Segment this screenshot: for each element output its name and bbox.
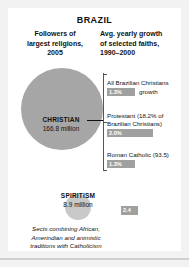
growth-bar-row: 1.3% growth (107, 88, 179, 96)
pie-label-spiritism-name: SPIRITISM (46, 192, 110, 201)
growth-bar-suffix: growth (139, 88, 158, 96)
leader-line-christian (87, 120, 104, 121)
growth-item-protestant: Protestant (18.2% ofBrazilian Christians… (107, 112, 179, 137)
pie-label-christian: CHRISTIAN 166.8 million (30, 116, 92, 133)
growth-bar-row: 2.0% (107, 129, 179, 137)
spiritism-growth-bar-value: 2.4 (123, 206, 131, 215)
bracket-tick-top (103, 74, 107, 75)
bracket-tick-bottom (103, 170, 107, 171)
growth-bar: 1.3% (107, 88, 135, 96)
footnote: Sects combining African,Amerindian and a… (22, 225, 110, 251)
growth-item-all-christians: All Brazilian Christians 1.3% growth (107, 79, 179, 96)
bottom-divider (0, 258, 189, 260)
growth-bar: 1.3% (107, 160, 135, 168)
pie-label-spiritism-value: 8.9 million (46, 201, 110, 210)
growth-label: Protestant (18.2% ofBrazilian Christians… (107, 112, 179, 128)
growth-item-roman-catholic: Roman Catholic (93.5) 1.3% (107, 151, 179, 168)
pie-label-spiritism: SPIRITISM 8.9 million (46, 192, 110, 209)
left-column-heading: Followers oflargest religions,2005 (14, 29, 96, 58)
pie-label-christian-name: CHRISTIAN (30, 116, 92, 125)
page-title: BRAZIL (8, 15, 181, 25)
growth-bar-value: 1.3% (109, 88, 122, 96)
spiritism-growth-bar: 2.4 (121, 206, 138, 215)
growth-bar: 2.0% (107, 129, 153, 137)
infographic-panel: BRAZIL Followers oflargest religions,200… (8, 8, 181, 251)
pie-label-christian-value: 166.8 million (30, 125, 92, 134)
growth-bar-value: 2.0% (109, 129, 122, 137)
pie-slice-christian (21, 68, 103, 150)
infographic-page: BRAZIL Followers oflargest religions,200… (0, 0, 189, 267)
growth-bar-value: 1.3% (109, 160, 122, 168)
growth-bar-row: 1.3% (107, 160, 179, 168)
growth-label: Roman Catholic (93.5) (107, 151, 179, 159)
growth-label: All Brazilian Christians (107, 79, 179, 87)
right-column-heading: Avg. yearly growthof selected faiths,199… (100, 29, 180, 58)
